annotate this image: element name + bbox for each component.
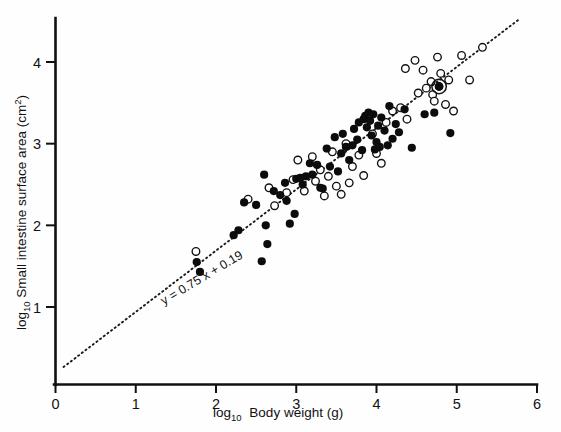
data-point-filled <box>260 171 268 179</box>
data-point-filled <box>350 125 358 133</box>
data-point-open <box>333 182 341 190</box>
data-point-open <box>321 192 329 200</box>
x-tick-label-1: 1 <box>132 396 140 412</box>
y-axis-title-sub: 10 <box>21 301 32 312</box>
data-point-open <box>271 202 279 210</box>
x-tick-label-0: 0 <box>51 396 59 412</box>
axis-group <box>54 18 537 385</box>
data-point-filled <box>446 129 454 137</box>
x-axis-title-sub: 10 <box>231 412 242 423</box>
data-point-highlight-core <box>435 82 444 91</box>
data-point-filled <box>377 113 385 121</box>
data-point-open <box>378 159 386 167</box>
data-point-filled <box>334 167 342 175</box>
data-point-filled <box>345 156 353 164</box>
data-point-open <box>411 57 419 65</box>
y-tick-labels: 1234 <box>33 55 41 316</box>
data-point-filled <box>395 128 403 136</box>
data-point-filled <box>263 240 271 248</box>
data-point-open <box>360 172 368 180</box>
data-point-filled <box>326 162 334 170</box>
data-point-open <box>414 89 422 97</box>
data-point-open <box>403 115 411 123</box>
data-point-filled <box>369 110 377 118</box>
data-point-filled <box>368 131 376 139</box>
regression-equation-label: y = 0.75 x + 0.19 <box>158 248 245 308</box>
svg-text:log10 Body weight (g): log10 Body weight (g) <box>213 405 343 423</box>
data-point-filled <box>286 220 294 228</box>
data-point-filled <box>331 133 339 141</box>
data-point-open <box>345 179 353 187</box>
data-point-open <box>445 76 453 84</box>
data-point-filled <box>358 146 366 154</box>
y-tick-group <box>46 62 55 307</box>
data-point-filled <box>430 109 438 117</box>
data-point-filled <box>353 135 361 143</box>
data-point-filled <box>388 135 396 143</box>
data-point-filled <box>380 127 388 135</box>
x-tick-group <box>56 385 538 393</box>
data-point-filled <box>240 198 248 206</box>
y-axis-title-text: Small intestine surface area (cm <box>14 105 29 298</box>
y-axis-title-log: log <box>14 312 29 330</box>
data-point-filled <box>400 105 408 113</box>
data-point-open <box>294 156 302 164</box>
data-point-open <box>325 173 333 181</box>
data-point-open <box>437 70 445 78</box>
data-point-filled <box>408 144 416 152</box>
y-tick-label-3: 3 <box>33 136 41 152</box>
data-point-open <box>430 97 438 105</box>
svg-text:log10 Small intestine surface: log10 Small intestine surface area (cm2) <box>12 95 32 330</box>
data-point-filled <box>384 141 392 149</box>
y-tick-label-1: 1 <box>33 300 41 316</box>
x-axis-title-log: log <box>213 405 231 420</box>
data-point-filled <box>291 210 299 218</box>
data-point-open <box>402 65 410 73</box>
regression-line <box>64 19 520 367</box>
data-point-open <box>466 76 474 84</box>
x-tick-label-5: 5 <box>453 396 461 412</box>
filled-circle-series <box>193 82 455 276</box>
data-point-filled <box>234 226 242 234</box>
data-point-filled <box>337 149 345 157</box>
data-point-open <box>337 191 345 199</box>
open-circle-series <box>192 44 486 256</box>
data-point-filled <box>193 258 201 266</box>
data-point-filled <box>252 201 260 209</box>
x-tick-label-4: 4 <box>372 396 380 412</box>
data-point-open <box>419 66 427 74</box>
data-point-filled <box>392 120 400 128</box>
y-axis-title-close: ) <box>14 95 29 100</box>
data-point-open <box>458 52 466 60</box>
highlighted-point-series <box>432 79 446 93</box>
data-point-filled <box>306 159 314 167</box>
data-point-filled <box>276 191 284 199</box>
figure-container: log10 Small intestine surface area (cm2)… <box>0 0 561 432</box>
data-point-filled <box>421 110 429 118</box>
data-point-open <box>479 44 487 52</box>
data-point-filled <box>283 197 291 205</box>
x-tick-label-6: 6 <box>533 396 541 412</box>
data-point-filled <box>319 184 327 192</box>
y-tick-label-4: 4 <box>33 55 41 71</box>
data-point-filled <box>299 180 307 188</box>
data-point-open <box>192 248 200 256</box>
data-point-filled <box>262 221 270 229</box>
data-point-filled <box>376 143 384 151</box>
scatter-plot: 0123456 1234 y = 0.75 x + 0.19 log10 Bod… <box>0 0 561 432</box>
data-point-open <box>442 101 450 109</box>
data-point-open <box>434 53 442 61</box>
y-tick-label-2: 2 <box>33 218 41 234</box>
data-point-filled <box>339 130 347 138</box>
data-point-filled <box>313 161 321 169</box>
x-axis-title-text: Body weight (g) <box>249 405 343 420</box>
data-point-filled <box>258 257 266 265</box>
data-point-open <box>450 107 458 115</box>
x-axis-title: log10 Body weight (g) <box>213 405 343 423</box>
data-point-filled <box>323 144 331 152</box>
data-point-filled <box>385 102 393 110</box>
data-point-filled <box>281 179 289 187</box>
data-point-filled <box>308 171 316 179</box>
y-axis-title: log10 Small intestine surface area (cm2) <box>12 95 32 330</box>
